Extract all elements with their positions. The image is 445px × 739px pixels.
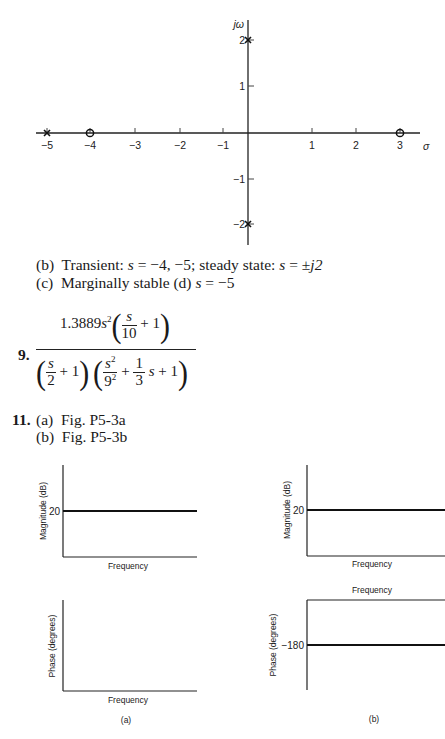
- tf-denominator: (s2 + 1) (s292 + 13 s + 1): [36, 355, 188, 390]
- answer-c-d: (c) Marginally stable (d) s = −5: [36, 274, 234, 292]
- problem-11-part-b: (b) Fig. P5-3b: [36, 428, 127, 446]
- fig-a-mag-ylabel: Magnitude (dB): [38, 482, 48, 540]
- fig-a-magnitude-plot: 20 Magnitude (dB) Frequency: [38, 465, 197, 571]
- fig-b-phase-xlabel: Frequency: [352, 585, 393, 595]
- fig-a-phase-ylabel: Phase (degrees): [47, 614, 57, 677]
- y-tick-label: 1: [239, 80, 245, 92]
- x-tick-label: 2: [353, 139, 359, 151]
- fig-a-caption: (a): [121, 715, 132, 725]
- x-tick-label: −1: [217, 139, 229, 151]
- fig-b-phase-ylabel: Phase (degrees): [268, 613, 278, 676]
- x-tick-label: 3: [397, 139, 403, 151]
- fig-b-mag-level-label: 20: [293, 505, 305, 516]
- pole-zero-plot: −5 −4 −3 −2 −1 1 2 3 2 1 −1 −2 jω σ: [0, 0, 445, 250]
- tf-fraction-bar: [36, 349, 196, 350]
- tf-numerator: 1.3889s2(s10 + 1): [60, 308, 170, 342]
- x-tick-label: −5: [41, 139, 53, 151]
- real-axis-label: σ: [423, 140, 430, 152]
- y-tick-label: −1: [233, 173, 245, 185]
- problem-9-number: 9.: [18, 346, 30, 364]
- problem-11-part-a: (a) Fig. P5-3a: [36, 411, 126, 429]
- imag-axis-label: jω: [231, 18, 244, 30]
- fig-a-phase-xlabel: Frequency: [108, 695, 149, 705]
- fig-b-magnitude-plot: 20 Magnitude (dB) Frequency: [282, 465, 445, 569]
- fig-b-phase-level-label: −180: [281, 640, 304, 651]
- answer-b: (b) Transient: s = −4, −5; steady state:…: [36, 256, 322, 274]
- x-tick-label: −3: [129, 139, 141, 151]
- fig-a-mag-xlabel: Frequency: [108, 561, 149, 571]
- x-tick-label: −4: [84, 139, 96, 151]
- fig-b-caption: (b): [369, 714, 380, 724]
- problem-11-number: 11.: [12, 411, 31, 429]
- fig-a-phase-plot: Phase (degrees) Frequency (a): [47, 600, 197, 725]
- x-tick-label: 1: [309, 139, 315, 151]
- y-tick-label: −2: [233, 218, 245, 230]
- fig-b-mag-xlabel: Frequency: [352, 559, 393, 569]
- fig-a-mag-level-label: 20: [49, 506, 61, 517]
- y-tick-label: 2: [239, 34, 245, 46]
- x-tick-label: −2: [174, 139, 186, 151]
- fig-b-phase-plot: Frequency −180 Phase (degrees) (b): [268, 585, 445, 724]
- fig-b-mag-ylabel: Magnitude (dB): [282, 481, 292, 539]
- bode-plots: 20 Magnitude (dB) Frequency Phase (degre…: [0, 450, 445, 739]
